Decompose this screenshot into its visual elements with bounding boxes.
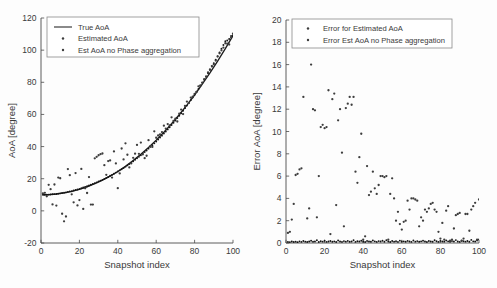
data-point bbox=[88, 185, 90, 187]
data-point bbox=[295, 174, 297, 176]
data-point bbox=[470, 208, 472, 210]
data-point bbox=[466, 240, 468, 242]
data-point bbox=[119, 172, 121, 174]
data-point bbox=[167, 128, 169, 130]
data-point bbox=[455, 214, 457, 216]
data-point bbox=[418, 225, 420, 227]
data-point bbox=[117, 187, 119, 189]
data-point bbox=[408, 208, 410, 210]
data-point bbox=[455, 239, 457, 241]
data-point bbox=[377, 184, 379, 186]
data-point bbox=[107, 176, 109, 178]
x-tick-label: 60 bbox=[151, 246, 161, 256]
data-point bbox=[320, 126, 322, 128]
data-point bbox=[199, 84, 201, 86]
y-tick-label: 18 bbox=[272, 37, 282, 47]
data-point bbox=[136, 144, 138, 146]
x-tick-label: 80 bbox=[436, 246, 446, 256]
data-point bbox=[343, 225, 345, 227]
data-point bbox=[401, 241, 403, 243]
data-point bbox=[165, 127, 167, 129]
data-point bbox=[86, 185, 88, 187]
data-point bbox=[314, 109, 316, 111]
data-point bbox=[339, 241, 341, 243]
chart-legend[interactable]: True AoAEstimated AoAEst AoA no Phase ag… bbox=[47, 17, 199, 57]
y-tick-label: 0 bbox=[32, 206, 37, 216]
data-point bbox=[474, 202, 476, 204]
data-point bbox=[395, 220, 397, 222]
data-point bbox=[353, 239, 355, 241]
y-tick-label: 10 bbox=[272, 127, 282, 137]
data-point bbox=[195, 91, 197, 93]
data-point bbox=[157, 139, 159, 141]
data-point bbox=[228, 38, 230, 40]
data-point bbox=[366, 240, 368, 242]
x-tick-label: 0 bbox=[39, 246, 44, 256]
data-point bbox=[80, 168, 82, 170]
data-point bbox=[463, 240, 465, 242]
data-point bbox=[57, 193, 59, 195]
y-tick-label: 0 bbox=[277, 238, 282, 248]
data-point bbox=[302, 96, 304, 98]
data-point bbox=[147, 139, 149, 141]
chart-legend[interactable]: Error for Estimated AoAError Est AoA no … bbox=[292, 19, 452, 48]
y-tick-label: 16 bbox=[272, 60, 282, 70]
data-point bbox=[142, 153, 144, 155]
x-tick-label: 60 bbox=[397, 246, 407, 256]
data-point bbox=[232, 33, 234, 35]
data-point bbox=[432, 241, 434, 243]
data-point bbox=[197, 88, 199, 90]
data-point bbox=[302, 240, 304, 242]
legend-label: Est AoA no Phase aggregation bbox=[78, 46, 181, 55]
data-point bbox=[380, 241, 382, 243]
data-point bbox=[426, 241, 428, 243]
data-point bbox=[226, 40, 228, 42]
x-axis-title: Snapshot index bbox=[104, 259, 170, 270]
data-point bbox=[159, 133, 161, 135]
data-point bbox=[428, 207, 430, 209]
data-point bbox=[387, 239, 389, 241]
data-point bbox=[134, 159, 136, 161]
data-point bbox=[53, 183, 55, 185]
data-point bbox=[74, 172, 76, 174]
data-point bbox=[416, 199, 418, 201]
data-point bbox=[430, 203, 432, 205]
y-tick-label: 6 bbox=[277, 171, 282, 181]
data-point bbox=[420, 216, 422, 218]
data-point bbox=[138, 153, 140, 155]
data-point bbox=[385, 175, 387, 177]
data-point bbox=[190, 99, 192, 101]
x-tick-label: 80 bbox=[190, 246, 200, 256]
data-point bbox=[100, 180, 102, 182]
data-point bbox=[113, 150, 115, 152]
data-point bbox=[428, 240, 430, 242]
data-point bbox=[405, 241, 407, 243]
data-point bbox=[170, 116, 172, 118]
data-point bbox=[90, 184, 92, 186]
data-point bbox=[159, 137, 161, 139]
y-tick-label: 20 bbox=[27, 174, 37, 184]
data-point bbox=[59, 192, 61, 194]
data-point bbox=[61, 192, 63, 194]
data-point bbox=[178, 115, 180, 117]
data-point bbox=[478, 239, 480, 241]
data-point bbox=[432, 202, 434, 204]
data-point bbox=[459, 212, 461, 214]
data-point bbox=[184, 107, 186, 109]
data-point bbox=[436, 240, 438, 242]
data-point bbox=[439, 240, 441, 242]
data-point bbox=[86, 192, 88, 194]
data-point bbox=[438, 241, 440, 243]
data-point bbox=[308, 207, 310, 209]
data-point bbox=[411, 241, 413, 243]
data-point bbox=[115, 172, 117, 174]
data-point bbox=[470, 239, 472, 241]
data-point bbox=[80, 187, 82, 189]
data-point bbox=[289, 231, 291, 233]
data-point bbox=[111, 176, 113, 178]
data-point bbox=[441, 222, 443, 224]
data-point bbox=[188, 102, 190, 104]
data-point bbox=[65, 191, 67, 193]
data-point bbox=[55, 204, 57, 206]
data-point bbox=[424, 208, 426, 210]
